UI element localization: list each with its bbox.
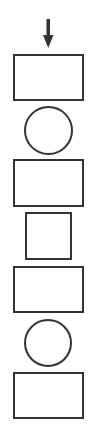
arrow-down-icon	[0, 0, 112, 52]
circle-shape	[24, 106, 73, 155]
rectangle-shape	[13, 159, 84, 207]
circle-shape	[24, 319, 72, 367]
shape-sequence-diagram	[0, 0, 112, 446]
rectangle-shape	[13, 372, 84, 419]
square-shape	[25, 212, 72, 260]
rectangle-shape	[13, 54, 84, 101]
rectangle-shape	[13, 266, 84, 313]
